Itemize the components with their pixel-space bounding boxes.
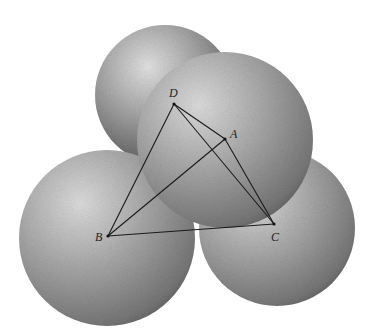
- figure-canvas: D A B C: [0, 0, 369, 336]
- label-a: A: [229, 127, 238, 141]
- label-b: B: [95, 230, 103, 244]
- vertex-c: [272, 222, 275, 225]
- tetrahedron-spheres-figure: D A B C: [0, 0, 369, 336]
- vertex-a: [223, 137, 226, 140]
- label-d: D: [168, 86, 178, 100]
- label-c: C: [271, 230, 280, 244]
- vertex-b: [106, 234, 109, 237]
- vertex-d: [172, 102, 175, 105]
